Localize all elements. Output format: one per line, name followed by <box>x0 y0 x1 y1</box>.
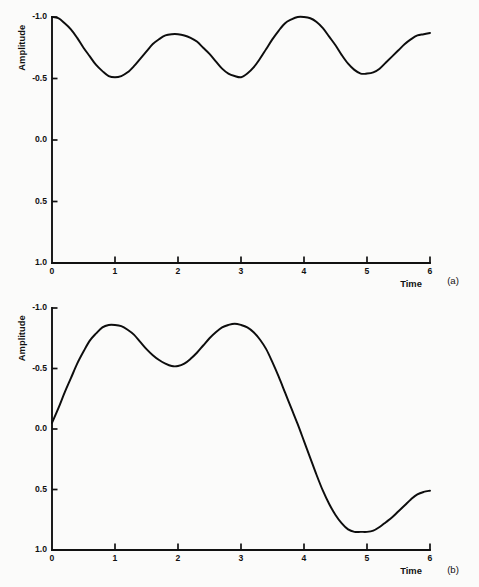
y-axis-title: Amplitude <box>16 25 27 71</box>
chart-panel-b: 1.00.50.0-0.5-1.0 0123456 Time Amplitude… <box>0 290 479 587</box>
chart-a-canvas: 1.00.50.0-0.5-1.0 0123456 Time Amplitude… <box>0 0 479 290</box>
y-tick-label: 0.0 <box>35 423 47 433</box>
x-axis-title: Time <box>400 278 422 289</box>
data-curve-b <box>52 324 430 532</box>
y-tick-label: -1.0 <box>32 11 47 21</box>
chart-b-axes <box>52 308 430 550</box>
chart-panel-a: 1.00.50.0-0.5-1.0 0123456 Time Amplitude… <box>0 0 479 290</box>
y-tick-label: -0.5 <box>32 73 47 83</box>
y-tick-label: 1.0 <box>35 257 47 267</box>
x-axis-tick-labels: 0123456 <box>50 266 433 276</box>
x-tick-label: 0 <box>50 553 55 563</box>
y-axis-tick-labels: 1.00.50.0-0.5-1.0 <box>32 11 47 267</box>
x-tick-label: 2 <box>176 553 181 563</box>
x-tick-label: 5 <box>365 266 370 276</box>
y-tick-label: -1.0 <box>32 302 47 312</box>
y-tick-label: 1.0 <box>35 544 47 554</box>
x-tick-label: 6 <box>428 553 433 563</box>
x-axis-title: Time <box>400 565 422 576</box>
y-axis-tick-labels: 1.00.50.0-0.5-1.0 <box>32 302 47 554</box>
x-tick-label: 0 <box>50 266 55 276</box>
data-curve-a <box>52 17 430 78</box>
chart-a-axes <box>52 17 430 263</box>
x-axis-ticks <box>52 544 430 551</box>
panel-label-b: (b) <box>447 564 459 575</box>
y-tick-label: 0.5 <box>35 484 47 494</box>
y-tick-label: -0.5 <box>32 363 47 373</box>
y-axis-title: Amplitude <box>16 315 27 361</box>
figure-page: 1.00.50.0-0.5-1.0 0123456 Time Amplitude… <box>0 0 479 587</box>
x-axis-ticks <box>52 257 430 264</box>
x-tick-label: 1 <box>113 553 118 563</box>
x-axis-tick-labels: 0123456 <box>50 553 433 563</box>
x-tick-label: 5 <box>365 553 370 563</box>
chart-b-canvas: 1.00.50.0-0.5-1.0 0123456 Time Amplitude… <box>0 290 479 587</box>
panel-label-a: (a) <box>447 275 459 286</box>
x-tick-label: 4 <box>302 266 307 276</box>
y-tick-label: 0.0 <box>35 134 47 144</box>
x-tick-label: 4 <box>302 553 307 563</box>
x-tick-label: 3 <box>239 266 244 276</box>
x-tick-label: 6 <box>428 266 433 276</box>
x-tick-label: 2 <box>176 266 181 276</box>
y-tick-label: 0.5 <box>35 196 47 206</box>
x-tick-label: 3 <box>239 553 244 563</box>
x-tick-label: 1 <box>113 266 118 276</box>
